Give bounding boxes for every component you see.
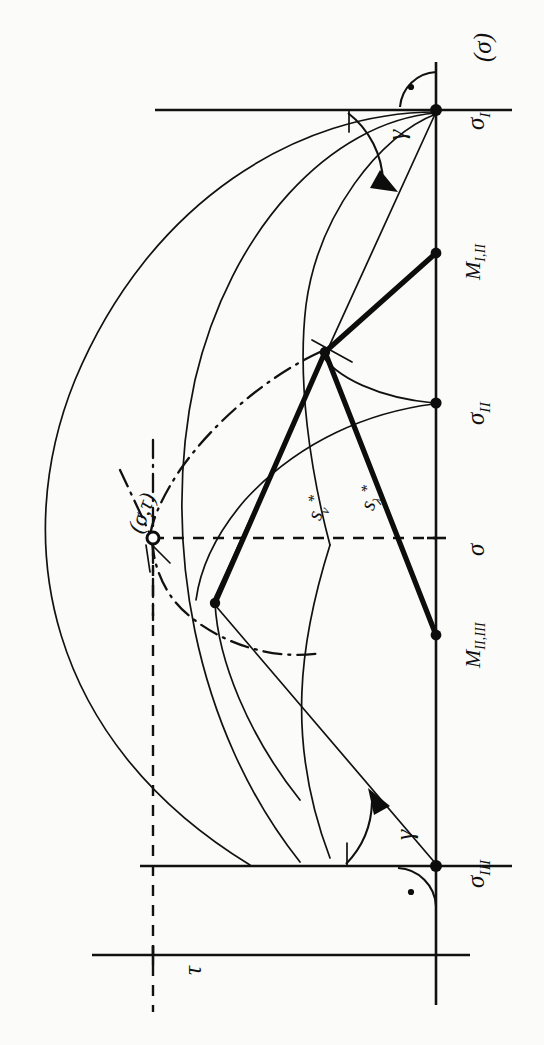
ray-g3-to-node-lower [215, 605, 436, 864]
point-marker-center-gt[interactable] [147, 532, 159, 544]
label-point-g2: σII [463, 402, 493, 425]
label-gamma-bottom: γ [392, 830, 418, 840]
outer-arc-curve-inner [182, 113, 436, 862]
arc-g1-node [303, 114, 436, 545]
center-leader-b [146, 545, 150, 572]
right-angle-arc-top [400, 72, 436, 107]
construction-diagram [0, 0, 544, 1045]
dashdot-arc-upper [150, 352, 320, 536]
right-angle-dot-bottom [408, 889, 414, 895]
label-sigma-axis-top: (σ) [470, 33, 495, 62]
thick-link-m12-node-upper [325, 253, 436, 352]
gamma-arc-bottom [346, 802, 372, 864]
point-marker-g2[interactable] [430, 397, 441, 408]
gamma-arrow-top [370, 170, 398, 192]
point-marker-node-lower[interactable] [210, 598, 220, 608]
thick-link-node-upper-node-lower [215, 352, 325, 603]
label-point-g3: σIII [463, 860, 493, 888]
arc-node-lower-tail [215, 603, 300, 800]
point-marker-g3[interactable] [430, 860, 442, 872]
label-point-m12: MI,II [462, 244, 488, 280]
label-point-g1: σI [463, 112, 493, 130]
point-marker-node-upper[interactable] [320, 347, 330, 357]
label-sigma-mid: σ [463, 544, 488, 556]
right-angle-dot-top [408, 84, 414, 90]
right-angle-arc-bottom [398, 868, 436, 906]
label-gamma-top: γ [384, 130, 410, 140]
label-point-m23: MII,III [462, 622, 488, 668]
arc-node-g3 [302, 545, 330, 858]
figure-canvas: (σ) σI MI,II σII σ MII,III σIII (σ,τ) τ … [0, 0, 544, 1045]
point-marker-m23[interactable] [431, 630, 442, 641]
point-marker-g1[interactable] [430, 104, 442, 116]
point-marker-m12[interactable] [431, 248, 442, 259]
label-tau-axis: τ [180, 966, 205, 975]
